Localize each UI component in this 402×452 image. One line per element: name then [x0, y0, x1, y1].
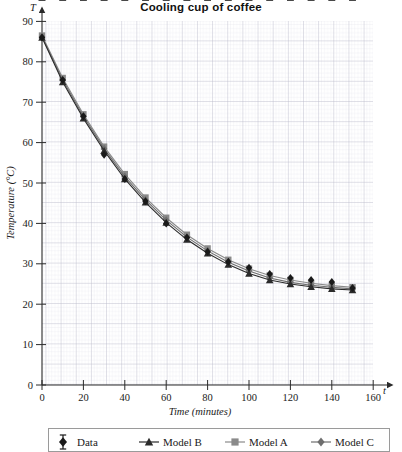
- chart-legend: DataModel BModel AModel C: [48, 428, 390, 452]
- legend-label: Model C: [335, 436, 374, 448]
- svg-text:140: 140: [324, 392, 340, 403]
- legend-label: Model A: [249, 436, 288, 448]
- svg-text:20: 20: [23, 299, 34, 310]
- y-axis-label: Temperature (°C): [5, 166, 17, 240]
- y-tick-labels: 0 10 20 30 40 50 60 70 80 90: [23, 16, 34, 391]
- x-tick-labels: 0 20 40 60 80 100 120 140 160: [39, 392, 381, 403]
- legend-item-data[interactable]: Data: [59, 435, 98, 449]
- svg-text:120: 120: [283, 392, 299, 403]
- legend-item-model-c[interactable]: Model C: [311, 436, 374, 448]
- svg-text:0: 0: [39, 392, 44, 403]
- svg-text:30: 30: [23, 258, 34, 269]
- legend-item-model-b[interactable]: Model B: [139, 436, 202, 448]
- plot-area: T t 0 10 20 30 40 50 60 70 80 90: [0, 0, 402, 424]
- svg-text:60: 60: [23, 137, 34, 148]
- svg-text:70: 70: [23, 97, 34, 108]
- svg-text:60: 60: [161, 392, 172, 403]
- marker-diamond: [317, 438, 324, 447]
- svg-text:0: 0: [28, 380, 33, 391]
- legend-content: DataModel BModel AModel C: [49, 429, 391, 452]
- svg-text:100: 100: [241, 392, 257, 403]
- x-axis-label: Time (minutes): [169, 406, 232, 418]
- svg-text:10: 10: [23, 339, 34, 350]
- svg-text:40: 40: [23, 218, 34, 229]
- svg-text:40: 40: [120, 392, 131, 403]
- marker-diamond: [59, 437, 67, 447]
- svg-text:80: 80: [23, 56, 34, 67]
- y-axis-symbol: T: [30, 2, 37, 13]
- grid-background: [42, 21, 373, 385]
- svg-text:80: 80: [202, 392, 213, 403]
- marker-square: [231, 438, 238, 445]
- svg-text:50: 50: [23, 178, 34, 189]
- x-axis-symbol: t: [383, 385, 387, 396]
- svg-text:160: 160: [365, 392, 381, 403]
- svg-text:20: 20: [78, 392, 89, 403]
- legend-label: Data: [77, 436, 98, 448]
- svg-text:90: 90: [23, 16, 34, 27]
- legend-item-model-a[interactable]: Model A: [225, 436, 288, 448]
- legend-label: Model B: [163, 436, 202, 448]
- chart-figure: Cooling cup of coffee T t: [0, 0, 402, 452]
